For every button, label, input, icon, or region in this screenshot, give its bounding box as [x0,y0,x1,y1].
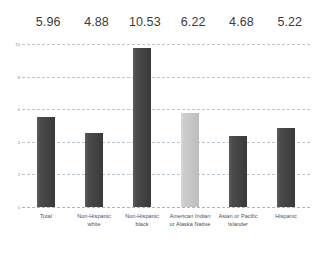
y-tick-label: 0 [18,206,20,210]
value-label: 6.22 [169,15,217,29]
value-label: 5.96 [24,15,72,29]
y-tick-label: 2 [18,173,20,177]
value-label: 10.53 [121,15,169,29]
y-tick-label: 10 [15,43,20,47]
bar-slot [166,44,214,207]
y-tick-label: 4 [18,141,20,145]
category-label-asian-or-pacific-islander: Asian or Pacific Islander [214,212,262,228]
bar-slot [118,44,166,207]
value-label: 4.68 [217,15,265,29]
category-label-row: Total Non-Hispanic white Non-Hispanic bl… [22,212,310,228]
bar-slot [22,44,70,207]
bar-chart-figure: 5.96 4.88 10.53 6.22 4.68 5.22 10 8 6 4 … [0,0,321,253]
y-tick-label: 8 [18,75,20,79]
bar-group [22,44,310,207]
category-label-hispanic: Hispanic [262,212,310,220]
bar-slot [70,44,118,207]
category-label-total: Total [22,212,70,220]
value-label-row: 5.96 4.88 10.53 6.22 4.68 5.22 [24,11,314,33]
bar-non-hispanic-white[interactable] [85,133,103,207]
category-label-american-indian-or-alaska-native: American Indian or Alaska Native [166,212,214,228]
bar-american-indian-or-alaska-native[interactable] [181,113,199,207]
bar-hispanic[interactable] [277,128,295,207]
bar-asian-or-pacific-islander[interactable] [229,136,247,207]
value-label: 4.88 [72,15,120,29]
bar-slot [262,44,310,207]
bar-total[interactable] [37,117,55,207]
gridline-0-baseline: 0 [22,207,310,208]
y-tick-label: 6 [18,108,20,112]
bar-non-hispanic-black[interactable] [133,48,151,207]
category-label-non-hispanic-white: Non-Hispanic white [70,212,118,228]
category-label-non-hispanic-black: Non-Hispanic black [118,212,166,228]
plot-area: 10 8 6 4 2 0 [22,44,310,207]
bar-slot [214,44,262,207]
value-label: 5.22 [266,15,314,29]
